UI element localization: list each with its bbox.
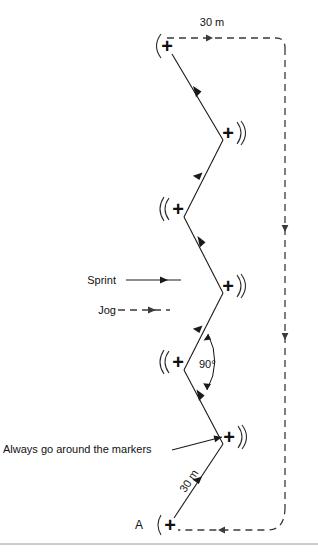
jog-arrowhead-bottom — [218, 527, 225, 534]
marker-arc-inner — [237, 275, 241, 297]
note-label: Always go around the markers — [3, 443, 152, 455]
marker-arc-inner — [165, 198, 169, 220]
sprint-arrowhead-3 — [193, 326, 203, 334]
marker-start-a: + — [158, 514, 176, 536]
marker-plus-glyph: + — [172, 351, 184, 373]
sprint-segment-4-to-3 — [184, 217, 223, 293]
jog-arrowhead-right-lower — [282, 333, 289, 340]
start-point-label: A — [135, 518, 143, 532]
angle-label: 90° — [199, 358, 216, 370]
sprint-arrowhead-5 — [193, 173, 203, 181]
marker-arc-outer — [242, 425, 247, 449]
marker-arc-inner — [238, 426, 242, 448]
marker-arc-inner — [237, 122, 241, 144]
jog-bottom-segment — [178, 507, 285, 530]
marker-top: + — [157, 34, 173, 58]
marker-arc-outer — [160, 197, 164, 221]
jog-top-segment — [167, 38, 285, 48]
legend-sprint-arrowhead — [160, 277, 168, 284]
marker-plus-glyph: + — [164, 514, 176, 536]
marker-5: + — [160, 350, 184, 374]
sprint-segment-3-to-2 — [184, 140, 223, 217]
marker-plus-glyph: + — [161, 35, 173, 57]
legend-sprint-row: Sprint — [87, 274, 181, 286]
legend-jog-row: Jog — [98, 304, 170, 316]
jog-arrowhead-right-upper — [282, 225, 289, 232]
marker-plus-glyph: + — [172, 198, 184, 220]
legend-jog-arrowhead — [148, 307, 156, 314]
legend: Sprint Jog — [87, 274, 181, 316]
marker-plus-glyph: + — [223, 426, 235, 448]
marker-6: + — [223, 425, 246, 449]
legend-sprint-label: Sprint — [87, 274, 116, 286]
top-distance-label: 30 m — [200, 16, 224, 28]
jog-arrowhead-top — [206, 35, 213, 42]
angle-arc-arrowhead-bottom — [203, 383, 211, 390]
marker-3: + — [160, 197, 184, 221]
marker-arc-outer — [241, 121, 246, 145]
marker-arc-outer — [158, 515, 161, 535]
diagram-canvas: + + + + + + — [0, 0, 318, 556]
marker-plus-glyph: + — [222, 275, 234, 297]
note-leader — [172, 436, 222, 450]
marker-plus-glyph: + — [222, 122, 234, 144]
marker-arc-inner — [165, 351, 169, 373]
agility-drill-diagram: + + + + + + — [0, 0, 318, 556]
marker-4: + — [222, 274, 245, 298]
marker-2: + — [222, 121, 245, 145]
legend-jog-label: Jog — [98, 304, 116, 316]
marker-arc-outer — [160, 350, 164, 374]
marker-arc-outer — [241, 274, 246, 298]
sprint-segment-6-to-5 — [184, 370, 223, 444]
sprint-segment-2-to-top — [172, 54, 223, 140]
